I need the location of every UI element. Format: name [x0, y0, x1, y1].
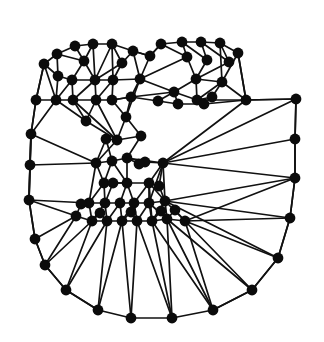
graph-node[interactable] — [182, 52, 193, 63]
graph-node[interactable] — [52, 49, 63, 60]
graph-node[interactable] — [26, 129, 37, 140]
graph-node[interactable] — [115, 198, 126, 209]
graph-node[interactable] — [199, 99, 210, 110]
graph-node[interactable] — [108, 178, 119, 189]
graph-node[interactable] — [100, 198, 111, 209]
graph-node[interactable] — [170, 205, 181, 216]
graph-node[interactable] — [217, 77, 228, 88]
graph-node[interactable] — [290, 173, 301, 184]
graph-node[interactable] — [291, 94, 302, 105]
graph-node[interactable] — [117, 216, 128, 227]
graph-node[interactable] — [173, 99, 184, 110]
graph-node[interactable] — [132, 216, 143, 227]
graph-node[interactable] — [169, 87, 180, 98]
graph-node[interactable] — [108, 75, 119, 86]
graph-node[interactable] — [112, 135, 123, 146]
graph-node[interactable] — [87, 216, 98, 227]
graph-node[interactable] — [24, 195, 35, 206]
graph-node[interactable] — [30, 234, 41, 245]
graph-node[interactable] — [144, 178, 155, 189]
graph-node[interactable] — [70, 41, 81, 52]
graph-node[interactable] — [95, 208, 106, 219]
graph-canvas — [0, 0, 324, 342]
graph-node[interactable] — [153, 96, 164, 107]
graph-node[interactable] — [76, 199, 87, 210]
graph-node[interactable] — [224, 57, 235, 68]
graph-node[interactable] — [93, 305, 104, 316]
graph-node[interactable] — [191, 74, 202, 85]
graph-node[interactable] — [51, 95, 62, 106]
graph-node[interactable] — [68, 95, 79, 106]
graph-node[interactable] — [135, 74, 146, 85]
graph-edge — [295, 99, 296, 139]
graph-node[interactable] — [39, 59, 50, 70]
graph-node[interactable] — [156, 206, 167, 217]
graph-node[interactable] — [91, 95, 102, 106]
graph-node[interactable] — [208, 305, 219, 316]
graph-node[interactable] — [90, 75, 101, 86]
graph-node[interactable] — [25, 160, 36, 171]
graph-node[interactable] — [88, 39, 99, 50]
graph-node[interactable] — [136, 131, 147, 142]
graph-node[interactable] — [177, 37, 188, 48]
graph-edge — [246, 99, 296, 100]
graph-node[interactable] — [196, 37, 207, 48]
graph-node[interactable] — [202, 55, 213, 66]
graph-node[interactable] — [107, 95, 118, 106]
graph-node[interactable] — [126, 207, 137, 218]
graph-node[interactable] — [67, 75, 78, 86]
graph-node[interactable] — [81, 116, 92, 127]
graph-node[interactable] — [158, 158, 169, 169]
graph-node[interactable] — [31, 95, 42, 106]
graph-node[interactable] — [160, 196, 171, 207]
graph-node[interactable] — [285, 213, 296, 224]
graph-node[interactable] — [101, 134, 112, 145]
graph-node[interactable] — [144, 198, 155, 209]
graph-node[interactable] — [79, 56, 90, 67]
graph-node[interactable] — [134, 159, 145, 170]
graph-node[interactable] — [247, 285, 258, 296]
graph-node[interactable] — [71, 211, 82, 222]
graph-node[interactable] — [107, 39, 118, 50]
graph-node[interactable] — [215, 38, 226, 49]
graph-node[interactable] — [121, 112, 132, 123]
graph-node[interactable] — [167, 313, 178, 324]
graph-node[interactable] — [273, 253, 284, 264]
graph-node[interactable] — [61, 285, 72, 296]
graph-node[interactable] — [126, 92, 137, 103]
graph-node[interactable] — [180, 216, 191, 227]
graph-node[interactable] — [290, 134, 301, 145]
graph-node[interactable] — [40, 260, 51, 271]
graph-node[interactable] — [145, 51, 156, 62]
graph-node[interactable] — [128, 46, 139, 57]
graph-node[interactable] — [107, 156, 118, 167]
graph-node[interactable] — [233, 48, 244, 59]
graph-node[interactable] — [126, 313, 137, 324]
graph-node[interactable] — [147, 216, 158, 227]
graph-node[interactable] — [122, 178, 133, 189]
graph-figure-root — [0, 0, 324, 342]
graph-node[interactable] — [241, 95, 252, 106]
graph-node[interactable] — [53, 71, 64, 82]
graph-node[interactable] — [122, 153, 133, 164]
graph-node[interactable] — [156, 39, 167, 50]
graph-node[interactable] — [154, 181, 165, 192]
graph-node[interactable] — [91, 158, 102, 169]
graph-node[interactable] — [117, 58, 128, 69]
graph-edge — [112, 44, 113, 80]
